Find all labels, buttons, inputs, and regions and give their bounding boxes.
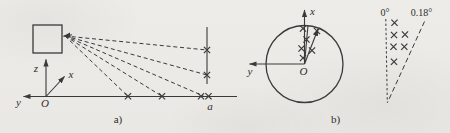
max-degree-label: 0.18° (411, 7, 433, 18)
y-axis-label: y (15, 96, 21, 108)
zero-degree-label: 0° (381, 7, 390, 18)
panel-c: 0° 0.18° (381, 7, 433, 103)
origin-label: O (41, 97, 49, 109)
cross-mark (391, 20, 397, 26)
cross-mark (391, 32, 397, 38)
zero-degree-ray (386, 19, 388, 103)
cross-mark (402, 31, 408, 37)
x-axis-label: x (68, 68, 74, 80)
distance-label: a (207, 100, 213, 112)
panel-a-caption: a) (114, 113, 123, 126)
sight-line (65, 36, 207, 50)
cross-mark (391, 59, 397, 65)
sight-line (65, 36, 204, 96)
deviation-points (390, 20, 408, 65)
cross-mark (300, 25, 306, 31)
cross-mark (298, 45, 304, 51)
figure-canvas: z x y O a a) x y O b) 0° (0, 0, 450, 133)
sight-line (65, 36, 162, 96)
sight-fan-lines (65, 36, 207, 96)
cross-mark (401, 44, 407, 50)
b-origin-label: O (300, 65, 308, 77)
panel-b-caption: b) (331, 113, 341, 126)
sight-line (65, 36, 207, 75)
cross-mark (390, 44, 396, 50)
panel-b: x y O b) (247, 5, 343, 126)
b-y-axis-label: y (247, 65, 253, 77)
instrument-box (33, 25, 62, 53)
scatter-points (298, 25, 320, 61)
z-axis-label: z (33, 62, 39, 74)
panel-a: z x y O a a) (15, 25, 237, 126)
cross-mark (314, 28, 320, 34)
diagram-svg: z x y O a a) x y O b) 0° (0, 0, 450, 133)
sight-line (65, 36, 128, 96)
b-x-axis-label: x (309, 5, 315, 17)
x-axis-line (46, 77, 65, 97)
